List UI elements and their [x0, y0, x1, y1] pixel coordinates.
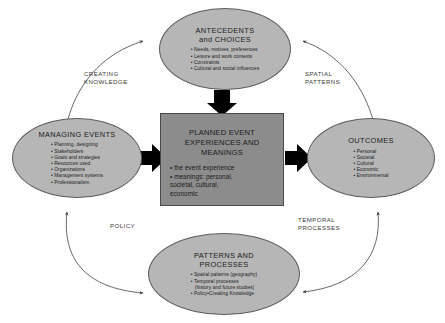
node-central-title: PLANNED EVENT EXPERIENCES AND MEANINGS	[170, 128, 274, 157]
node-managing-events-title: MANAGING EVENTS	[38, 130, 115, 139]
node-outcomes-items: Personal Societal Cultural Economic Envi…	[353, 149, 388, 180]
list-item: Management systems	[51, 173, 103, 179]
node-central-items: the event experience meanings: personal,…	[170, 164, 234, 198]
list-item: Policy•Creating Knowledge	[191, 291, 257, 297]
label-spatial-patterns: SPATIAL PATTERNS	[305, 70, 340, 87]
node-managing-events[interactable]: MANAGING EVENTS Planning, designing Stak…	[12, 118, 142, 198]
label-policy: POLICY	[110, 222, 135, 230]
list-item: Professionalism	[51, 180, 103, 186]
node-outcomes-title: OUTCOMES	[348, 136, 394, 145]
list-item: Spatial patterns (geography)	[191, 272, 257, 278]
node-planned-event-experiences-and-meanings[interactable]: PLANNED EVENT EXPERIENCES AND MEANINGS t…	[160, 113, 284, 206]
node-managing-events-items: Planning, designing Stakeholders Goals a…	[51, 142, 103, 185]
list-item: (history and future studies)	[191, 285, 257, 291]
node-antecedents-and-choices[interactable]: ANTECEDENTS and CHOICES Needs, motives, …	[159, 8, 291, 90]
list-item: Leisure and work contexts	[191, 54, 259, 60]
node-patterns-items: Spatial patterns (geography) Temporal pr…	[191, 272, 257, 297]
list-item: meanings: personal, societal, cultural, …	[170, 173, 234, 199]
event-framework-diagram: ANTECEDENTS and CHOICES Needs, motives, …	[0, 0, 445, 323]
label-creating-knowledge: CREATING KNOWLEDGE	[84, 70, 128, 87]
label-temporal-processes: TEMPORAL PROCESSES	[298, 216, 340, 233]
node-antecedents-items: Needs, motives, preferences Leisure and …	[191, 47, 259, 72]
list-item: Needs, motives, preferences	[191, 47, 259, 53]
node-patterns-title: PATTERNS AND PROCESSES	[194, 251, 254, 269]
list-item: Planning, designing	[51, 142, 103, 148]
list-item: Cultural and social influences	[191, 66, 259, 72]
node-antecedents-title: ANTECEDENTS and CHOICES	[196, 26, 255, 44]
list-item: the event experience	[170, 164, 234, 173]
node-patterns-and-processes[interactable]: PATTERNS AND PROCESSES Spatial patterns …	[148, 233, 300, 315]
node-outcomes[interactable]: OUTCOMES Personal Societal Cultural Econ…	[307, 118, 435, 198]
list-item: Environmental	[353, 173, 388, 179]
